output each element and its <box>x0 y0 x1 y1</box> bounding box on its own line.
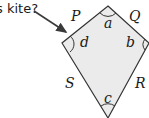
label-angle-d: d <box>80 34 89 50</box>
kite-diagram: s kite? P Q R S a b c d <box>0 0 149 118</box>
arrow-pointer <box>34 11 66 32</box>
question-text: s kite? <box>0 1 38 16</box>
label-angle-c: c <box>104 90 112 106</box>
label-angle-b: b <box>126 34 135 50</box>
label-angle-a: a <box>104 15 112 31</box>
label-P: P <box>70 8 81 24</box>
label-Q: Q <box>129 8 141 24</box>
label-R: R <box>134 75 146 91</box>
label-S: S <box>65 75 75 91</box>
